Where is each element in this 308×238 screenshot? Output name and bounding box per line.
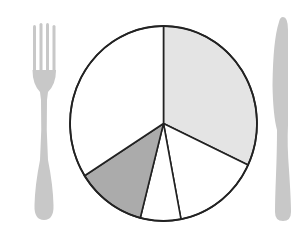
pie-chart bbox=[70, 26, 257, 221]
knife-icon bbox=[273, 17, 292, 221]
fork-icon bbox=[33, 23, 57, 220]
plate-pie-chart-figure bbox=[0, 0, 308, 238]
chart-canvas bbox=[0, 0, 308, 238]
